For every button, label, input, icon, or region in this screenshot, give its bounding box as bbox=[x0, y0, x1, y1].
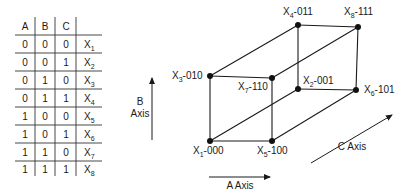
header-b: B bbox=[42, 21, 49, 32]
cell-a: 1 bbox=[22, 129, 28, 140]
table-row: 1 1 0 X7 bbox=[22, 147, 94, 160]
header-c: C bbox=[62, 21, 69, 32]
truth-table-header: A B C bbox=[22, 21, 70, 32]
vertex-x4-label: X4-011 bbox=[283, 6, 313, 19]
cell-a: 1 bbox=[22, 164, 28, 175]
cell-b: 1 bbox=[42, 93, 48, 104]
vertex-x5-dot bbox=[269, 138, 275, 144]
boolean-cube-diagram: A B C 0 0 0 X1 0 0 1 X2 0 1 0 X3 0 1 1 X… bbox=[0, 0, 410, 195]
truth-table-rows: 0 0 0 X1 0 0 1 X2 0 1 0 X3 0 1 1 X4 1 0 … bbox=[22, 39, 94, 177]
cell-x: X7 bbox=[84, 147, 95, 160]
cell-b: 0 bbox=[42, 129, 48, 140]
cell-c: 0 bbox=[63, 147, 69, 158]
table-row: 1 0 0 X5 bbox=[22, 111, 94, 124]
cell-b: 0 bbox=[42, 111, 48, 122]
b-axis-label-line2: Axis bbox=[131, 108, 150, 119]
cell-b: 1 bbox=[42, 147, 48, 158]
vertex-x3-label: X3-010 bbox=[172, 70, 203, 83]
cell-x: X8 bbox=[84, 164, 95, 177]
vertex-x6-dot bbox=[353, 87, 359, 93]
cell-c: 1 bbox=[63, 57, 69, 68]
vertex-x3-dot bbox=[207, 73, 213, 79]
cell-c: 1 bbox=[63, 164, 69, 175]
cell-x: X3 bbox=[84, 75, 95, 88]
vertex-x4-dot bbox=[295, 22, 301, 28]
table-row: 0 1 1 X4 bbox=[22, 93, 94, 106]
b-axis-label-line1: B bbox=[137, 96, 144, 107]
c-axis-arrow-icon bbox=[311, 115, 392, 163]
c-axis-label: C Axis bbox=[338, 141, 366, 152]
cell-c: 1 bbox=[63, 93, 69, 104]
cell-b: 0 bbox=[42, 57, 48, 68]
cell-b: 0 bbox=[42, 39, 48, 50]
cell-a: 1 bbox=[22, 147, 28, 158]
table-row: 0 0 1 X2 bbox=[22, 57, 94, 70]
cell-x: X4 bbox=[84, 93, 95, 106]
vertex-x1-label: X1-000 bbox=[193, 145, 224, 158]
cell-a: 0 bbox=[22, 93, 28, 104]
vertex-x2-dot bbox=[295, 86, 301, 92]
table-row: 0 1 0 X3 bbox=[22, 75, 94, 88]
vertex-x7-label: X7-110 bbox=[238, 81, 268, 94]
a-axis-label: A Axis bbox=[226, 180, 253, 191]
cube-vertices bbox=[207, 22, 361, 144]
table-row: 1 1 1 X8 bbox=[22, 164, 94, 177]
cell-b: 1 bbox=[42, 75, 48, 86]
vertex-x7-dot bbox=[269, 75, 275, 81]
cell-c: 0 bbox=[63, 111, 69, 122]
vertex-x5-label: X5-100 bbox=[257, 145, 288, 158]
cell-b: 1 bbox=[42, 164, 48, 175]
cell-x: X1 bbox=[84, 39, 95, 52]
vertex-x1-dot bbox=[207, 138, 213, 144]
cell-c: 0 bbox=[63, 75, 69, 86]
cell-c: 1 bbox=[63, 129, 69, 140]
cell-a: 1 bbox=[22, 111, 28, 122]
cell-a: 0 bbox=[22, 75, 28, 86]
vertex-x6-label: X6-101 bbox=[364, 84, 395, 97]
vertex-x2-label: X2-001 bbox=[303, 75, 334, 88]
cell-a: 0 bbox=[22, 57, 28, 68]
cell-x: X5 bbox=[84, 111, 95, 124]
cube-edges bbox=[210, 25, 358, 141]
vertex-labels: X3-010 X7-110 X1-000 X5-100 X4-011 X8-11… bbox=[172, 6, 395, 158]
cell-x: X6 bbox=[84, 129, 95, 142]
cell-a: 0 bbox=[22, 39, 28, 50]
cell-c: 0 bbox=[63, 39, 69, 50]
cell-x: X2 bbox=[84, 57, 95, 70]
header-a: A bbox=[22, 21, 29, 32]
table-row: 0 0 0 X1 bbox=[22, 39, 94, 52]
vertex-x8-dot bbox=[355, 24, 361, 30]
vertex-x8-label: X8-111 bbox=[344, 6, 374, 19]
table-row: 1 0 1 X6 bbox=[22, 129, 94, 142]
